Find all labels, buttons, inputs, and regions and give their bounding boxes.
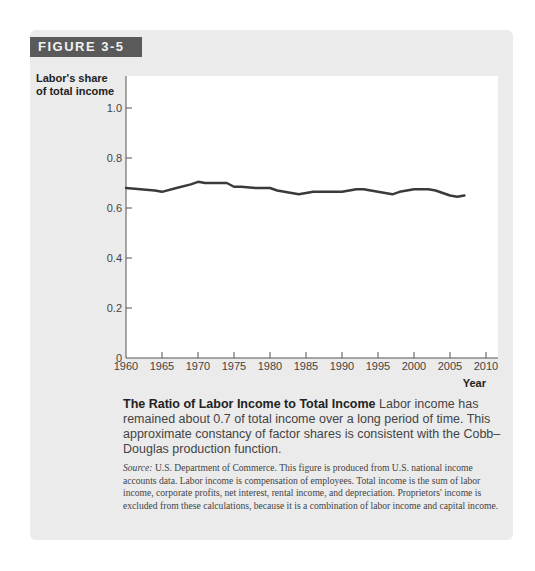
x-tick-label: 1995	[366, 360, 390, 372]
x-axis-label: Year	[463, 377, 487, 389]
x-tick-label: 1975	[222, 360, 246, 372]
x-tick-label: 1985	[294, 360, 318, 372]
y-tick-label: 0.4	[107, 252, 122, 264]
data-line	[126, 182, 464, 197]
source-text: U.S. Department of Commerce. This figure…	[123, 462, 498, 511]
caption-title: The Ratio of Labor Income to Total Incom…	[123, 397, 376, 411]
x-tick-label: 1970	[186, 360, 210, 372]
x-tick-label: 2010	[474, 360, 498, 372]
y-tick-label: 0.2	[107, 302, 122, 314]
x-tick-label: 1980	[258, 360, 282, 372]
x-tick-label: 1960	[114, 360, 138, 372]
y-tick-label: 0.8	[107, 152, 122, 164]
x-tick-label: 1965	[150, 360, 174, 372]
x-tick-label: 1990	[330, 360, 354, 372]
y-tick-label: 1.0	[107, 102, 122, 114]
x-tick-label: 2000	[402, 360, 426, 372]
source-note: Source: U.S. Department of Commerce. Thi…	[123, 462, 503, 512]
source-label: Source:	[123, 462, 152, 473]
y-tick-label: 0.6	[107, 202, 122, 214]
line-chart: 00.20.40.60.81.0196019651970197519801985…	[0, 0, 535, 400]
x-tick-label: 2005	[438, 360, 462, 372]
figure-caption: The Ratio of Labor Income to Total Incom…	[123, 397, 503, 457]
